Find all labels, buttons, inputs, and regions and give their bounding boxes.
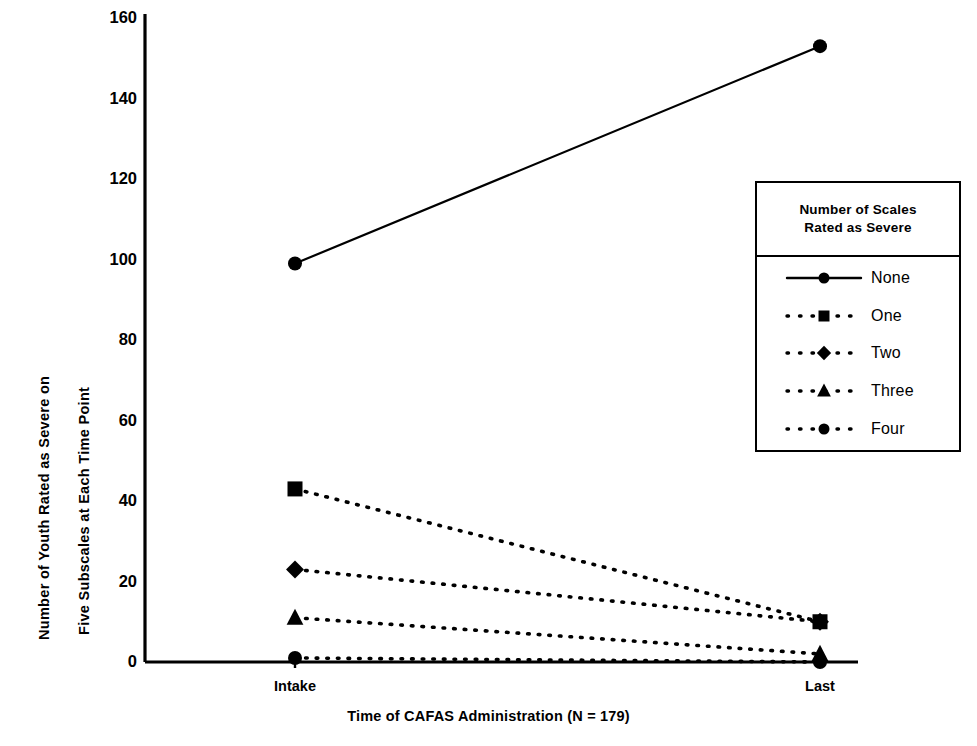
y-axis-tick-label-160: 160 <box>87 9 137 26</box>
legend-item-four[interactable]: Four <box>757 412 959 446</box>
legend: Number of Scales Rated as Severe NoneOne… <box>755 181 961 452</box>
series-line-none <box>295 46 820 263</box>
marker-circle-four-last <box>813 655 827 669</box>
legend-sample-glyph-one <box>781 306 867 326</box>
legend-marker-square-one <box>819 310 830 321</box>
legend-label-four: Four <box>871 420 905 438</box>
legend-sample-glyph-two <box>781 343 867 363</box>
marker-diamond-two-intake <box>286 560 304 578</box>
legend-marker-circle-none <box>819 272 830 283</box>
y-axis-tick-label-100: 100 <box>87 251 137 268</box>
marker-square-one-intake <box>288 481 303 496</box>
legend-label-one: One <box>871 307 902 325</box>
legend-title-line-2: Rated as Severe <box>804 219 911 237</box>
legend-sample-glyph-three <box>781 381 867 401</box>
marker-circle-none-last <box>813 39 827 53</box>
legend-sample-glyph-none <box>781 268 867 288</box>
series-line-one <box>295 489 820 622</box>
x-axis-tick-label-intake: Intake <box>274 678 316 694</box>
y-axis-tick-label-120: 120 <box>87 170 137 187</box>
x-axis-title: Time of CAFAS Administration (N = 179) <box>0 708 977 724</box>
legend-label-three: Three <box>871 382 914 400</box>
legend-marker-diamond-two <box>817 346 831 360</box>
legend-marker-triangle-three <box>817 384 831 397</box>
legend-sample-three <box>781 381 867 401</box>
legend-sample-glyph-four <box>781 419 867 439</box>
legend-label-two: Two <box>871 344 901 362</box>
legend-title: Number of Scales Rated as Severe <box>757 183 959 257</box>
marker-triangle-three-intake <box>287 609 304 625</box>
legend-sample-two <box>781 343 867 363</box>
y-axis-tick-label-80: 80 <box>87 331 137 348</box>
legend-item-none[interactable]: None <box>757 261 959 295</box>
marker-circle-none-intake <box>288 257 302 271</box>
y-axis-tick-label-40: 40 <box>87 492 137 509</box>
legend-title-line-1: Number of Scales <box>799 201 916 219</box>
y-axis-tick-label-20: 20 <box>87 573 137 590</box>
legend-marker-circle-four <box>819 424 830 435</box>
series-line-three <box>295 618 820 654</box>
legend-sample-none <box>781 268 867 288</box>
legend-items: NoneOneTwoThreeFour <box>757 257 959 450</box>
legend-sample-four <box>781 419 867 439</box>
y-axis-title-line-1: Number of Youth Rated as Severe on <box>36 376 52 640</box>
legend-sample-one <box>781 306 867 326</box>
y-axis-tick-label-60: 60 <box>87 412 137 429</box>
legend-label-none: None <box>871 269 910 287</box>
y-axis-tick-label-0: 0 <box>87 653 137 670</box>
legend-item-one[interactable]: One <box>757 299 959 333</box>
legend-item-two[interactable]: Two <box>757 336 959 370</box>
chart-figure: Number of Youth Rated as Severe on Five … <box>0 0 977 746</box>
y-axis-tick-label-140: 140 <box>87 90 137 107</box>
legend-item-three[interactable]: Three <box>757 374 959 408</box>
x-axis-tick-label-last: Last <box>805 678 835 694</box>
marker-circle-four-intake <box>288 651 302 665</box>
series-line-two <box>295 569 820 621</box>
